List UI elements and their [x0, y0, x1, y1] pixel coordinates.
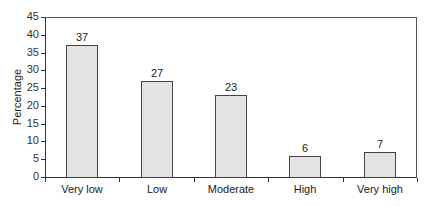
- y-tick: [41, 106, 45, 107]
- y-tick-label: 40: [27, 29, 39, 40]
- bar-value-label: 7: [360, 139, 400, 150]
- y-tick-label: 15: [27, 118, 39, 129]
- x-category-label: Very low: [45, 183, 119, 195]
- y-axis-label: Percentage: [11, 69, 23, 125]
- bar-very-high: [364, 152, 396, 178]
- y-tick-label: 5: [33, 153, 39, 164]
- bar-value-label: 23: [211, 82, 251, 93]
- y-tick-label: 35: [27, 47, 39, 58]
- bar-very-low: [66, 45, 98, 178]
- x-tick: [45, 178, 46, 182]
- bar-low: [141, 81, 173, 178]
- x-tick: [268, 178, 269, 182]
- y-tick: [41, 141, 45, 142]
- y-tick-label: 0: [33, 171, 39, 182]
- x-category-label: Very high: [343, 183, 417, 195]
- y-tick: [41, 17, 45, 18]
- y-tick-label: 25: [27, 82, 39, 93]
- y-tick: [41, 124, 45, 125]
- y-tick: [41, 70, 45, 71]
- x-category-label: High: [268, 183, 342, 195]
- y-tick-label: 30: [27, 64, 39, 75]
- y-tick-label: 10: [27, 135, 39, 146]
- bar-chart: Percentage 051015202530354045 37272367 V…: [0, 0, 431, 206]
- bar-value-label: 27: [137, 68, 177, 79]
- x-category-label: Low: [120, 183, 194, 195]
- y-tick: [41, 35, 45, 36]
- y-tick: [41, 88, 45, 89]
- x-category-label: Moderate: [194, 183, 268, 195]
- y-tick-label: 20: [27, 100, 39, 111]
- bar-value-label: 37: [62, 32, 102, 43]
- bar-high: [289, 156, 321, 178]
- bar-value-label: 6: [285, 143, 325, 154]
- y-tick: [41, 53, 45, 54]
- y-tick: [41, 159, 45, 160]
- bar-moderate: [215, 95, 247, 178]
- x-tick: [194, 178, 195, 182]
- x-tick: [417, 178, 418, 182]
- x-tick: [343, 178, 344, 182]
- y-tick-label: 45: [27, 11, 39, 22]
- x-tick: [119, 178, 120, 182]
